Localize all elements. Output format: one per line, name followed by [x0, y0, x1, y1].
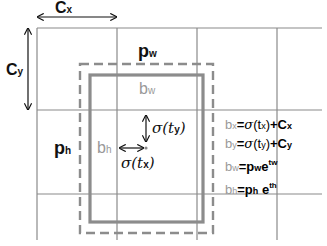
eq-bx-sigma: σ — [244, 117, 253, 132]
sigma-tx-text: σ(t — [121, 154, 143, 172]
label-bw-sub: w — [148, 85, 155, 96]
equations-block: bx=σ(tx)+Cx by=σ(ty)+Cy bw=pwetw bh=ph e… — [225, 116, 292, 200]
label-ph-base: p — [54, 138, 65, 158]
label-bw: bw — [139, 81, 155, 97]
label-cy-base: C — [6, 61, 18, 78]
label-bw-base: b — [139, 80, 148, 97]
eq-bw-e: e — [261, 159, 268, 174]
equation-by: by=σ(ty)+Cy — [225, 135, 292, 154]
eq-by-sigma: σ — [244, 136, 253, 151]
center-point — [144, 146, 147, 149]
eq-bx-arg: (t — [253, 117, 261, 132]
label-bh: bh — [97, 140, 111, 156]
eq-by-plus-sub: y — [287, 140, 292, 150]
eq-bw-exp: tw — [269, 158, 278, 167]
label-sigma-tx: σ(tx) — [121, 155, 155, 171]
label-sigma-ty: σ(ty) — [152, 120, 186, 136]
label-cx-sub: x — [67, 4, 73, 15]
eq-bh-p-sub: h — [253, 186, 259, 196]
eq-by-plus: +C — [270, 136, 287, 151]
label-cx: Cx — [55, 0, 72, 16]
label-cy: Cy — [6, 62, 23, 78]
eq-bx-plus: +C — [270, 117, 287, 132]
label-pw-base: p — [138, 41, 149, 61]
eq-by-arg: (t — [253, 136, 261, 151]
label-bh-base: b — [97, 139, 106, 156]
label-pw-sub: w — [149, 48, 157, 59]
label-ph: ph — [54, 139, 71, 157]
eq-bx-plus-sub: x — [287, 121, 292, 131]
sigma-ty-text: σ(t — [152, 119, 174, 137]
eq-bh-equals: = — [237, 182, 245, 197]
label-ph-sub: h — [65, 145, 71, 156]
label-cx-base: C — [55, 0, 67, 16]
equation-bx: bx=σ(tx)+Cx — [225, 116, 292, 135]
equation-bh: bh=ph eth — [225, 177, 292, 200]
label-bh-sub: h — [106, 144, 112, 155]
sigma-ty-close: ) — [180, 119, 186, 137]
equation-bw: bw=pwetw — [225, 154, 292, 177]
label-pw: pw — [138, 42, 157, 60]
sigma-tx-close: ) — [149, 154, 155, 172]
eq-bh-exp: th — [269, 181, 277, 190]
eq-bh-p: p — [245, 182, 253, 197]
label-cy-sub: y — [18, 66, 24, 77]
